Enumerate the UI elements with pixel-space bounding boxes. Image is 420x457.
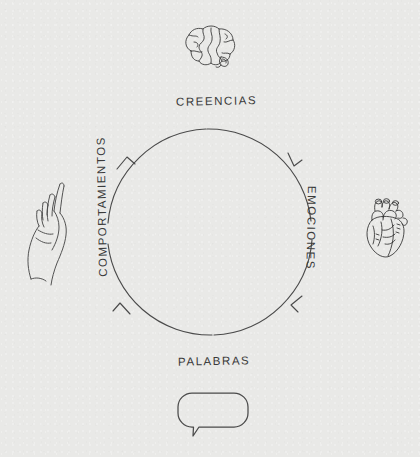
arrowhead-top-right-icon (288, 153, 302, 166)
node-label-emociones: EMOCIONES (305, 186, 318, 270)
cycle-ring (108, 129, 312, 335)
arc-palabras-to-comportamientos (108, 244, 212, 335)
arrowhead-bottom-left-icon (113, 303, 130, 314)
heart-icon (361, 196, 411, 262)
brain-icon (181, 24, 239, 68)
hand-icon (24, 178, 80, 286)
arc-creencias-to-emociones (207, 129, 311, 221)
cycle-arrowheads (113, 153, 302, 314)
arrowhead-bottom-right-icon (291, 296, 302, 312)
speech-bubble-icon (176, 391, 250, 439)
arrowhead-top-left-icon (117, 157, 135, 169)
node-label-comportamientos: COMPORTAMIENTOS (95, 136, 109, 277)
node-label-palabras: PALABRAS (178, 354, 250, 367)
node-label-creencias: CREENCIAS (176, 94, 257, 108)
arc-emociones-to-palabras (214, 240, 312, 335)
arc-comportamientos-to-creencias (108, 129, 206, 223)
